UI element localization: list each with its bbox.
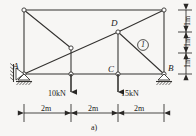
- vdim-label-1: 1m: [184, 37, 192, 47]
- vdim-label-0: 1m: [184, 16, 192, 26]
- hdim-label-2: 2m: [134, 105, 144, 113]
- joint-top-right: [162, 8, 166, 12]
- joint-mid-upper: [69, 46, 73, 50]
- truss-diagram-svg: [0, 0, 196, 136]
- load-label-15kn: 15kN: [121, 90, 139, 98]
- node-label-b: B: [168, 64, 174, 73]
- joint-d: [116, 30, 120, 34]
- member-one-diagonal: [118, 32, 164, 74]
- joint-top-left: [22, 8, 26, 12]
- support-a-hatching: [17, 82, 32, 85]
- vdim-label-2: 1m: [184, 58, 192, 68]
- hdim-label-0: 2m: [41, 105, 51, 113]
- support-b-hatching: [157, 82, 172, 85]
- support-b: [156, 74, 172, 85]
- support-b-triangle: [158, 74, 170, 80]
- figure-caption: a): [91, 124, 97, 132]
- node-label-d: D: [111, 19, 118, 28]
- member-upper-right-diagonal: [118, 10, 164, 32]
- node-label-c: C: [108, 65, 114, 74]
- member-one-label: 1: [141, 41, 145, 49]
- load-label-10kn: 10kN: [48, 90, 66, 98]
- member-upper-left-diagonal: [24, 10, 71, 48]
- figure-page: A B C D 1 10kN 15kN 2m 2m 2m 1m 1m 1m a): [0, 0, 196, 136]
- hdim-label-1: 2m: [88, 105, 98, 113]
- load-arrows: [71, 74, 118, 92]
- node-label-a: A: [13, 62, 19, 71]
